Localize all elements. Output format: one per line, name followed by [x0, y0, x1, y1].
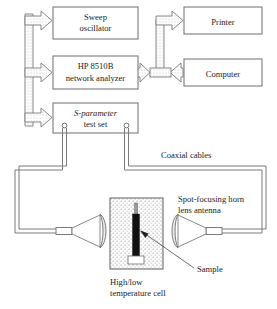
temperature-cell-label-line1: High/low [110, 277, 143, 287]
double-headed-arrow-icon-shaft [150, 68, 171, 77]
coax-connector-left [56, 228, 72, 235]
box-sweep-oscillator[interactable]: Sweep oscillator [53, 7, 138, 39]
coax-port-icon-right[interactable] [124, 123, 129, 128]
box-network-analyzer-line2: network analyzer [66, 73, 126, 83]
temperature-cell-label-line2: temperature cell [110, 288, 166, 298]
measurement-system-diagram: Sweep oscillator HP 8510B network analyz… [0, 0, 277, 309]
sample-label: Sample [197, 264, 223, 274]
spot-focusing-label-line1: Spot-focusing horn [178, 194, 245, 204]
box-printer-label: Printer [211, 17, 235, 27]
box-computer[interactable]: Computer [184, 59, 262, 86]
sample-pedestal [128, 256, 144, 264]
sample-specimen [133, 214, 140, 256]
box-s-parameter-test-set-line1: S-parameter [74, 108, 118, 118]
box-computer-label: Computer [206, 69, 241, 79]
box-network-analyzer[interactable]: HP 8510B network analyzer [53, 56, 138, 89]
box-network-analyzer-line1: HP 8510B [78, 61, 114, 71]
coax-port-icon-left[interactable] [62, 123, 67, 128]
box-printer[interactable]: Printer [184, 7, 262, 34]
coax-connector-right [206, 228, 222, 235]
box-sweep-oscillator-line1: Sweep [84, 12, 107, 22]
box-s-parameter-test-set-line2: test set [84, 119, 108, 129]
box-s-parameter-test-set[interactable]: S-parameter test set [53, 103, 138, 133]
spot-focusing-label-line2: lens antenna [178, 205, 221, 215]
coaxial-cables-label: Coaxial cables [161, 150, 212, 160]
box-sweep-oscillator-line2: oscillator [80, 23, 112, 33]
